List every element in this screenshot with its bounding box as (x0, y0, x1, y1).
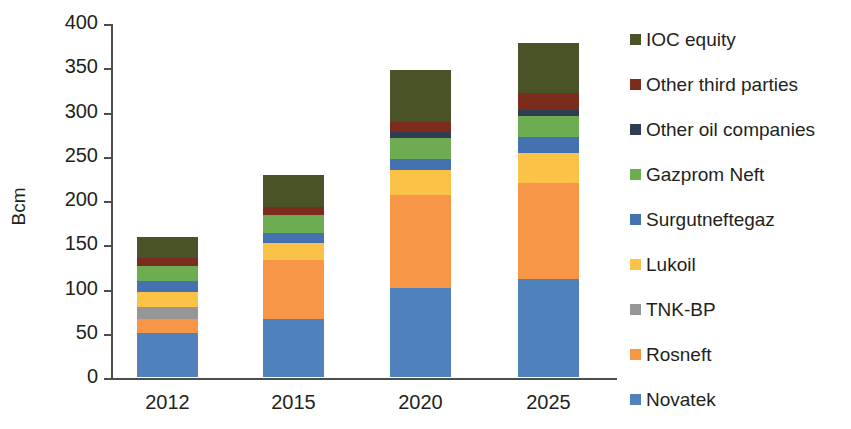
bar-segment[interactable] (263, 260, 324, 318)
legend-label: TNK-BP (646, 300, 716, 319)
bar-segment[interactable] (518, 153, 579, 183)
legend-item[interactable]: Rosneft (630, 332, 845, 377)
y-tick: 300 (104, 113, 111, 115)
bar-segment[interactable] (390, 159, 451, 170)
legend-label: Gazprom Neft (646, 165, 764, 184)
legend-swatch-icon (630, 394, 641, 405)
y-tick: 100 (104, 290, 111, 292)
bar-segment[interactable] (390, 138, 451, 159)
bar-segment[interactable] (263, 243, 324, 260)
x-axis-label: 2020 (361, 392, 481, 412)
y-tick-label: 50 (76, 322, 98, 342)
bar-segment[interactable] (263, 233, 324, 244)
stacked-bar[interactable] (137, 237, 198, 377)
y-tick: 150 (104, 245, 111, 247)
legend-item[interactable]: TNK-BP (630, 287, 845, 332)
chart-legend: IOC equityOther third partiesOther oil c… (630, 17, 845, 422)
legend-item[interactable]: Surgutneftegaz (630, 197, 845, 242)
y-tick-label: 150 (65, 233, 98, 253)
y-tick: 50 (104, 334, 111, 336)
y-tick-label: 0 (87, 366, 98, 386)
bar-segment[interactable] (518, 116, 579, 137)
legend-item[interactable]: Gazprom Neft (630, 152, 845, 197)
legend-swatch-icon (630, 34, 641, 45)
y-tick-label: 100 (65, 278, 98, 298)
x-axis-line (111, 378, 617, 380)
legend-label: Novatek (646, 390, 716, 409)
legend-label: Other oil companies (646, 120, 815, 139)
y-tick-label: 200 (65, 189, 98, 209)
y-axis-line (111, 24, 113, 379)
legend-item[interactable]: Other oil companies (630, 107, 845, 152)
y-tick-label: 250 (65, 145, 98, 165)
bar-segment[interactable] (390, 122, 451, 132)
y-axis-title: Bcm (9, 167, 28, 247)
bar-segment[interactable] (518, 93, 579, 110)
bar-segment[interactable] (390, 70, 451, 122)
bar-segment[interactable] (137, 266, 198, 280)
legend-item[interactable]: IOC equity (630, 17, 845, 62)
legend-swatch-icon (630, 124, 641, 135)
x-axis-label: 2025 (489, 392, 609, 412)
bar-segment[interactable] (390, 195, 451, 288)
y-tick: 350 (104, 68, 111, 70)
y-tick: 200 (104, 201, 111, 203)
legend-item[interactable]: Novatek (630, 377, 845, 422)
legend-swatch-icon (630, 169, 641, 180)
bar-segment[interactable] (137, 237, 198, 258)
bar-segment[interactable] (518, 43, 579, 93)
legend-label: Surgutneftegaz (646, 210, 775, 229)
plot-area: 050100150200250300350400 201220152020202… (111, 24, 616, 378)
y-tick: 400 (104, 24, 111, 26)
bar-segment[interactable] (137, 292, 198, 307)
y-tick-label: 400 (65, 12, 98, 32)
bar-segment[interactable] (137, 281, 198, 293)
bar-segment[interactable] (263, 319, 324, 377)
y-tick-label: 300 (65, 101, 98, 121)
bar-segment[interactable] (390, 288, 451, 377)
bar-segment[interactable] (137, 307, 198, 319)
stacked-bar[interactable] (263, 175, 324, 377)
x-axis-label: 2015 (234, 392, 354, 412)
bar-segment[interactable] (263, 175, 324, 207)
legend-item[interactable]: Other third parties (630, 62, 845, 107)
legend-swatch-icon (630, 259, 641, 270)
y-tick: 0 (104, 378, 111, 380)
legend-label: Rosneft (646, 345, 711, 364)
legend-swatch-icon (630, 304, 641, 315)
bar-segment[interactable] (518, 137, 579, 153)
legend-swatch-icon (630, 349, 641, 360)
bar-segment[interactable] (137, 258, 198, 266)
chart-figure: Bcm 050100150200250300350400 20122015202… (0, 0, 851, 429)
legend-item[interactable]: Lukoil (630, 242, 845, 287)
stacked-bar[interactable] (518, 43, 579, 377)
bar-segment[interactable] (263, 215, 324, 233)
legend-label: Other third parties (646, 75, 798, 94)
legend-swatch-icon (630, 79, 641, 90)
legend-label: IOC equity (646, 30, 736, 49)
bar-segment[interactable] (518, 279, 579, 377)
stacked-bar[interactable] (390, 70, 451, 377)
y-tick: 250 (104, 157, 111, 159)
bar-segment[interactable] (137, 333, 198, 377)
legend-label: Lukoil (646, 255, 696, 274)
x-axis-label: 2012 (108, 392, 228, 412)
bar-segment[interactable] (390, 170, 451, 195)
bar-segment[interactable] (263, 207, 324, 215)
bar-segment[interactable] (137, 319, 198, 332)
legend-swatch-icon (630, 214, 641, 225)
bar-segment[interactable] (518, 183, 579, 279)
y-tick-label: 350 (65, 56, 98, 76)
